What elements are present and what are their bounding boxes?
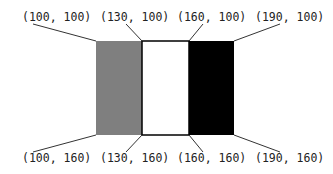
white-rect bbox=[142, 41, 189, 135]
black-rect bbox=[189, 41, 234, 135]
label-bottom-1: (100, 160) bbox=[22, 151, 91, 165]
leader-line-top-1 bbox=[33, 24, 96, 41]
leader-line-bottom-2 bbox=[126, 135, 142, 152]
label-top-1: (100, 100) bbox=[22, 10, 91, 24]
leader-line-top-2 bbox=[126, 24, 142, 41]
leader-line-bottom-4 bbox=[234, 135, 280, 152]
gray-rect bbox=[96, 41, 142, 135]
label-bottom-2: (130, 160) bbox=[100, 151, 169, 165]
leader-line-top-3 bbox=[189, 24, 203, 41]
label-top-3: (160, 100) bbox=[177, 10, 246, 24]
label-top-4: (190, 100) bbox=[255, 10, 324, 24]
label-top-2: (130, 100) bbox=[100, 10, 169, 24]
coordinate-diagram: (100, 100) (130, 100) (160, 100) (190, 1… bbox=[0, 0, 333, 174]
leader-line-top-4 bbox=[234, 24, 280, 41]
leader-line-bottom-3 bbox=[189, 135, 203, 152]
leader-line-bottom-1 bbox=[33, 135, 96, 152]
label-bottom-4: (190, 160) bbox=[255, 151, 324, 165]
label-bottom-3: (160, 160) bbox=[177, 151, 246, 165]
